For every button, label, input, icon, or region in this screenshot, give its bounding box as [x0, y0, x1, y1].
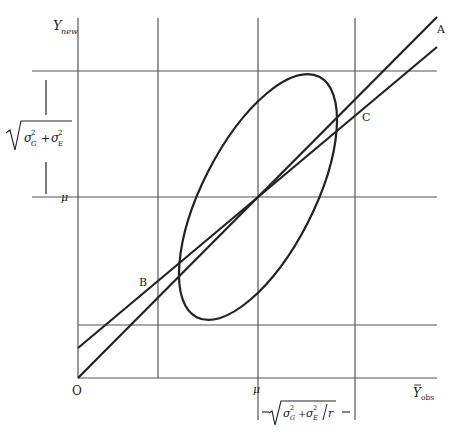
sigma-e-sub: E [312, 414, 318, 422]
y-label-sub: new [61, 27, 78, 36]
divisor-r: r [328, 407, 334, 420]
origin-label: O [72, 384, 82, 398]
sigma-e-sub: E [57, 140, 63, 148]
x-label-sub: obs [421, 393, 434, 402]
regression-ellipse-diagram: σ 2 G + σ 2 E σ 2 G + σ 2 E r Y new Y ob… [0, 0, 454, 435]
mu-label-y: μ [61, 191, 68, 204]
point-label-c: C [362, 111, 370, 124]
point-label-b: B [139, 276, 147, 289]
plus-sign: + [41, 132, 50, 145]
horizontal-extent-formula: σ 2 G + σ 2 E r [262, 401, 350, 425]
sigma-g-sub: G [31, 140, 37, 148]
x-axis-label: Y obs [413, 385, 434, 402]
vertical-grid-lines [78, 18, 355, 420]
sigma-g-sub: G [290, 414, 295, 422]
vertical-extent-formula: σ 2 G + σ 2 E [6, 121, 72, 150]
sigma-g-sup: 2 [290, 404, 294, 412]
sigma-e-sup: 2 [58, 129, 62, 137]
horizontal-grid-lines [32, 71, 437, 378]
divide-slash [323, 404, 327, 420]
sigma-g-sup: 2 [31, 129, 35, 137]
mu-label-x: μ [253, 383, 260, 396]
point-label-a: A [436, 23, 446, 36]
y-axis-label: Y new [53, 18, 78, 36]
sigma-e-sup: 2 [313, 404, 317, 412]
